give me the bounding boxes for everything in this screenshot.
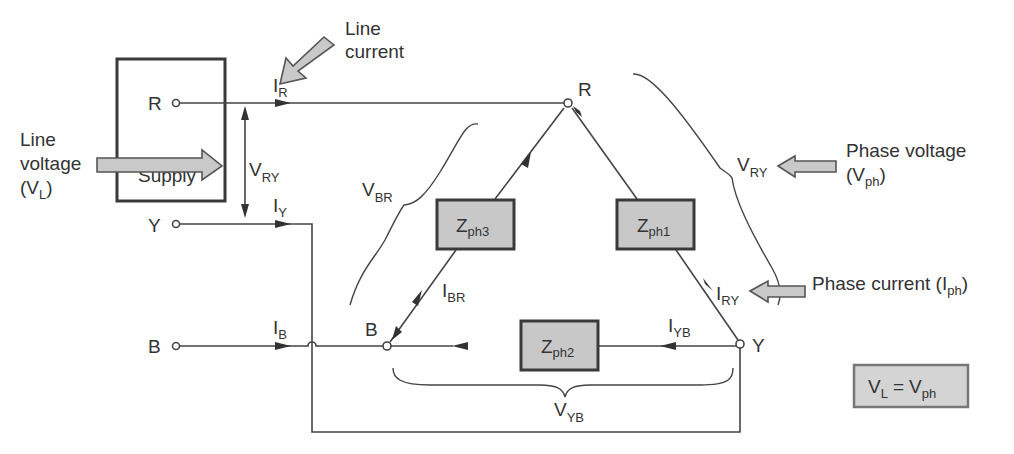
node-b	[383, 342, 391, 350]
line-voltage-label-3: (VL)	[20, 177, 53, 202]
line-voltage-label-1: Line	[20, 129, 56, 150]
phase-current-arrow-icon	[750, 281, 805, 302]
terminal-b-label: B	[148, 336, 161, 357]
phase-voltage-label-1: Phase voltage	[846, 140, 966, 161]
arrow-ibr-icon	[412, 290, 422, 306]
arrow-ir-icon	[275, 99, 291, 107]
arrow-br-top-icon	[521, 152, 531, 168]
arrow-iyb-icon	[660, 342, 676, 350]
arrow-up-icon	[241, 106, 249, 120]
arrow-down-icon	[241, 204, 249, 218]
terminal-r	[173, 100, 180, 107]
line-y-wire	[180, 224, 740, 432]
arrow-ib-icon	[275, 342, 291, 350]
phase-current-label: Phase current (Iph)	[812, 273, 968, 298]
delta-connection-diagram: Supply R Y B IR IY IB VRY Line current L…	[0, 0, 1014, 454]
branch-ry-top	[572, 108, 637, 199]
ib-label: IB	[273, 317, 287, 342]
node-b-label: B	[365, 319, 378, 340]
vyb-label: VYB	[554, 399, 584, 425]
ibr-label: IBR	[442, 280, 465, 305]
iy-label: IY	[273, 195, 287, 220]
arrow-iyb-left-icon	[452, 342, 468, 350]
node-r	[564, 99, 572, 107]
node-y	[736, 340, 744, 348]
terminal-b	[173, 343, 180, 350]
arrow-iy-icon	[275, 220, 291, 228]
brace-vry	[633, 74, 780, 305]
vbr-label: VBR	[362, 179, 393, 205]
line-voltage-label-2: voltage	[20, 153, 81, 174]
line-current-arrow-icon	[280, 37, 334, 84]
line-current-label-1: Line	[345, 18, 381, 39]
phase-voltage-arrow-icon	[778, 156, 836, 177]
branch-br-top	[495, 108, 564, 199]
node-r-label: R	[578, 79, 592, 100]
terminal-y-label: Y	[148, 215, 161, 236]
terminal-r-label: R	[148, 93, 162, 114]
iyb-label: IYB	[668, 315, 691, 340]
vry-line-label: VRY	[249, 159, 280, 185]
phase-voltage-label-2: (Vph)	[846, 164, 886, 189]
vry-phase-label: VRY	[737, 154, 768, 180]
terminal-y	[173, 221, 180, 228]
iry-label: IRY	[716, 283, 739, 308]
brace-vyb	[393, 368, 733, 397]
node-y-label: Y	[752, 335, 765, 356]
arrow-iry-icon	[703, 278, 713, 291]
line-current-label-2: current	[345, 41, 405, 62]
